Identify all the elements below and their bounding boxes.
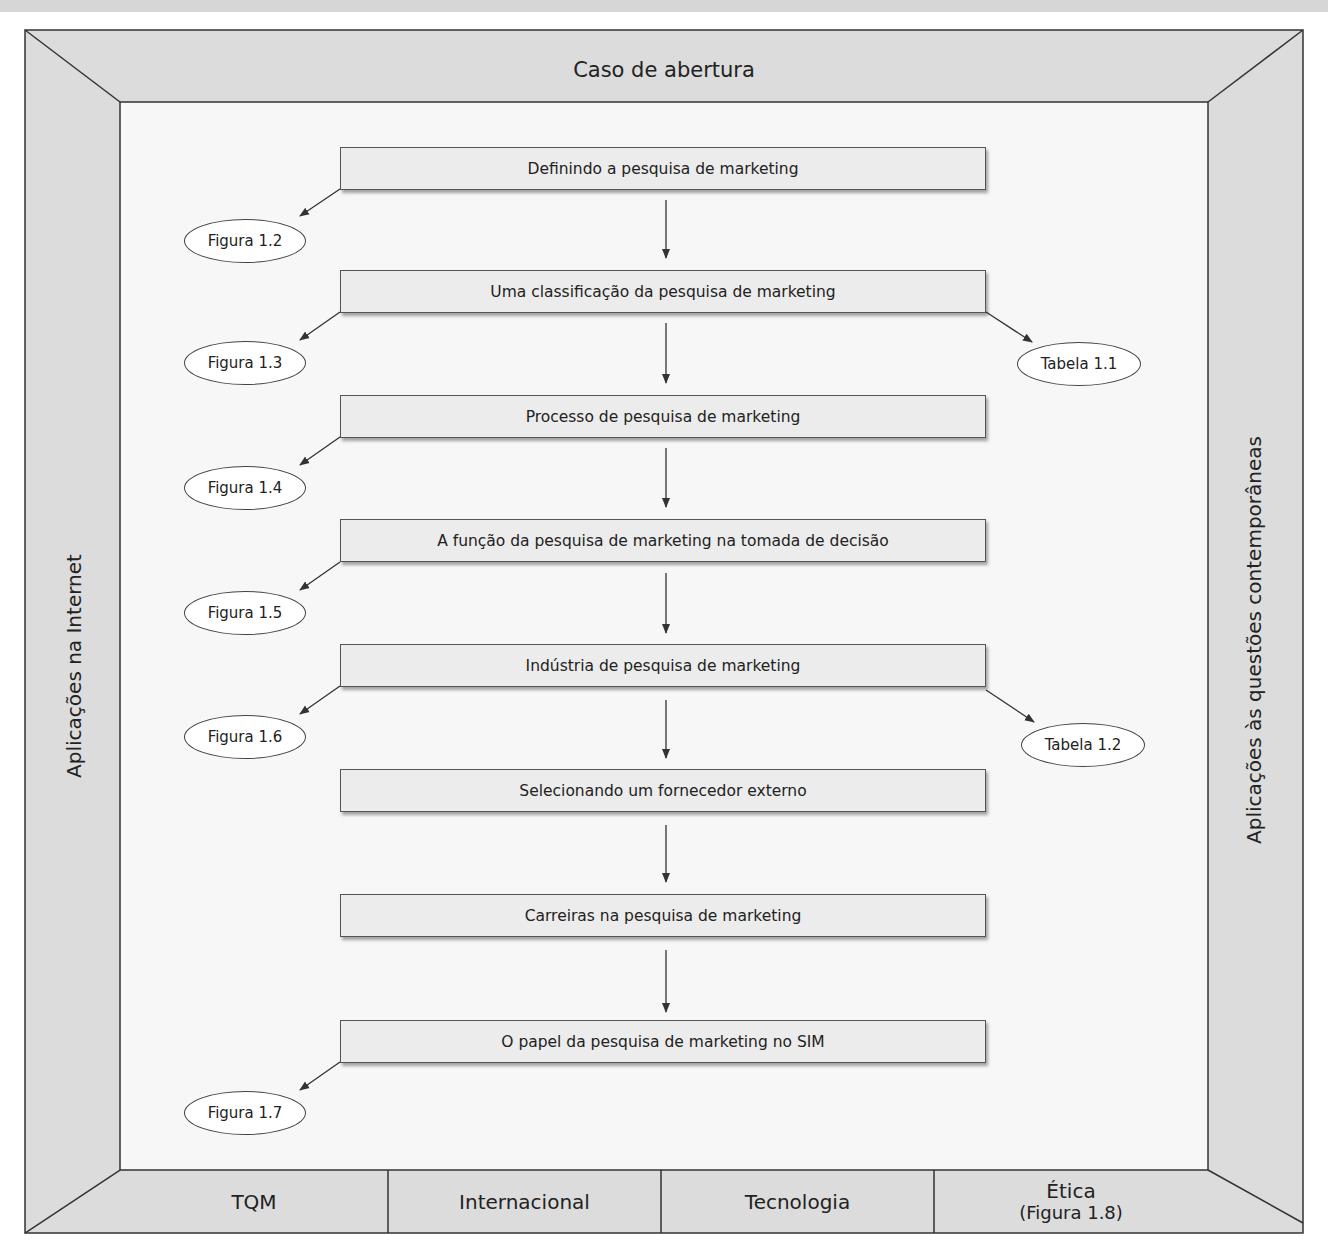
- reference-label: Tabela 1.2: [1045, 736, 1122, 754]
- frame-left-label: Aplicações na Internet: [62, 554, 86, 778]
- bottom-section-tqm: TQM: [120, 1170, 388, 1233]
- flow-step-label: Carreiras na pesquisa de marketing: [525, 907, 802, 925]
- flow-step-label: A função da pesquisa de marketing na tom…: [437, 532, 889, 550]
- bottom-section-label: Ética: [1046, 1180, 1095, 1202]
- reference-oval-figura-1-6: Figura 1.6: [184, 715, 306, 759]
- flow-step-label: Definindo a pesquisa de marketing: [527, 160, 798, 178]
- bottom-section-label: TQM: [231, 1191, 276, 1213]
- reference-oval-figura-1-4: Figura 1.4: [184, 466, 306, 510]
- reference-label: Figura 1.6: [208, 728, 283, 746]
- flow-step-box: O papel da pesquisa de marketing no SIM: [340, 1020, 986, 1063]
- flow-step-box: Definindo a pesquisa de marketing: [340, 147, 986, 190]
- bottom-section-label: Tecnologia: [745, 1191, 850, 1213]
- bottom-section-label: Internacional: [459, 1191, 590, 1213]
- reference-oval-tabela-1-2: Tabela 1.2: [1021, 723, 1145, 767]
- bottom-section-tecnologia: Tecnologia: [661, 1170, 934, 1233]
- reference-label: Figura 1.5: [208, 604, 283, 622]
- frame-right-label: Aplicações às questões contemporâneas: [1242, 436, 1266, 844]
- flow-step-label: O papel da pesquisa de marketing no SIM: [501, 1033, 824, 1051]
- flow-step-label: Indústria de pesquisa de marketing: [526, 657, 801, 675]
- flow-step-box: Processo de pesquisa de marketing: [340, 395, 986, 438]
- reference-label: Figura 1.7: [208, 1104, 283, 1122]
- flow-step-box: A função da pesquisa de marketing na tom…: [340, 519, 986, 562]
- reference-oval-figura-1-7: Figura 1.7: [184, 1091, 306, 1135]
- flow-step-label: Processo de pesquisa de marketing: [526, 408, 801, 426]
- reference-label: Tabela 1.1: [1041, 355, 1118, 373]
- flow-step-box: Uma classificação da pesquisa de marketi…: [340, 270, 986, 313]
- bottom-section-sublabel: (Figura 1.8): [1019, 1202, 1123, 1224]
- bottom-section-internacional: Internacional: [388, 1170, 661, 1233]
- bottom-section-etica: Ética (Figura 1.8): [934, 1170, 1208, 1233]
- reference-oval-figura-1-3: Figura 1.3: [184, 341, 306, 385]
- flow-step-box: Indústria de pesquisa de marketing: [340, 644, 986, 687]
- reference-label: Figura 1.3: [208, 354, 283, 372]
- reference-oval-figura-1-5: Figura 1.5: [184, 591, 306, 635]
- reference-label: Figura 1.4: [208, 479, 283, 497]
- reference-oval-tabela-1-1: Tabela 1.1: [1017, 342, 1141, 386]
- flow-step-box: Carreiras na pesquisa de marketing: [340, 894, 986, 937]
- reference-label: Figura 1.2: [208, 232, 283, 250]
- frame-top-label: Caso de abertura: [120, 58, 1208, 82]
- reference-oval-figura-1-2: Figura 1.2: [184, 219, 306, 263]
- flow-step-box: Selecionando um fornecedor externo: [340, 769, 986, 812]
- flow-step-label: Selecionando um fornecedor externo: [519, 782, 806, 800]
- flow-step-label: Uma classificação da pesquisa de marketi…: [490, 283, 835, 301]
